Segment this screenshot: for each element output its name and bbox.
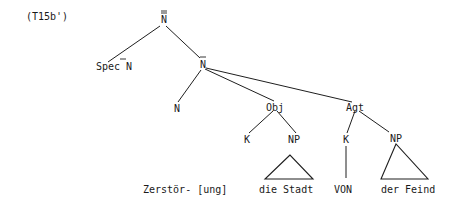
triangle-obj-np [265, 155, 313, 179]
edge-root-spec [108, 26, 160, 62]
edge-nbar-obj [205, 69, 274, 101]
example-label: (T15b') [26, 11, 68, 22]
node-label: Spec N [96, 61, 132, 72]
syntax-tree-diagram: (T15b') N Spec N [0, 0, 461, 210]
leaf-zerstoerung: Zerstör- [ung] [143, 184, 227, 195]
leaf-von: VON [334, 184, 352, 195]
node-root: N [161, 11, 167, 25]
leaf-der-feind: der Feind [381, 184, 435, 195]
node-agt-np: NP [390, 133, 402, 144]
edge-obj-k [249, 111, 273, 133]
edge-obj-np [277, 111, 296, 133]
edge-agt-np [359, 111, 389, 132]
node-agt-k: K [343, 134, 349, 145]
node-obj-np: NP [288, 134, 300, 145]
tree-canvas: (T15b') N Spec N [0, 0, 461, 210]
edge-agt-k [347, 111, 355, 133]
node-n: N [174, 103, 180, 114]
leaf-die-stadt: die Stadt [259, 184, 313, 195]
node-obj: Obj [266, 102, 284, 113]
edge-nbar-agt [206, 68, 352, 102]
node-obj-k: K [244, 134, 250, 145]
node-spec: Spec N [96, 59, 132, 72]
triangle-agt-np [381, 144, 428, 179]
node-label: N [200, 59, 206, 70]
node-label: N [161, 14, 167, 25]
node-nbar: N [200, 57, 206, 70]
edge-nbar-n [178, 70, 201, 102]
node-agt: Agt [346, 102, 364, 113]
edge-root-nbar [166, 26, 200, 58]
